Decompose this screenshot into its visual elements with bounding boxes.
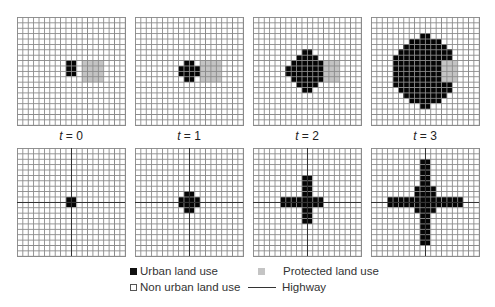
panel-bottom-t2 — [253, 148, 361, 256]
urban-swatch-icon — [130, 268, 137, 275]
non-urban-swatch-icon — [130, 284, 137, 291]
grid — [135, 17, 244, 126]
legend-non-urban: Non urban land use — [130, 281, 240, 293]
panel-bottom-t1 — [135, 148, 243, 256]
protected-swatch-icon — [258, 268, 265, 275]
panel-top-t2 — [253, 17, 361, 125]
highway-horizontal — [135, 202, 243, 204]
grid — [17, 17, 126, 126]
grid — [253, 17, 362, 126]
legend-urban: Urban land use — [130, 265, 218, 277]
highway-line-icon — [248, 287, 276, 288]
time-label-t0: t = 0 — [17, 129, 125, 143]
highway-horizontal — [371, 202, 479, 204]
panel-bottom-t3 — [371, 148, 479, 256]
time-label-t2: t = 2 — [253, 129, 361, 143]
legend-highway: Highway — [248, 281, 326, 293]
highway-horizontal — [17, 202, 125, 204]
panel-top-t0 — [17, 17, 125, 125]
time-label-t3: t = 3 — [371, 129, 479, 143]
panel-top-t3 — [371, 17, 479, 125]
highway-horizontal — [253, 202, 361, 204]
panel-top-t1 — [135, 17, 243, 125]
panel-bottom-t0 — [17, 148, 125, 256]
legend-protected: Protected land use — [258, 265, 379, 277]
time-label-t1: t = 1 — [135, 129, 243, 143]
grid — [371, 17, 480, 126]
